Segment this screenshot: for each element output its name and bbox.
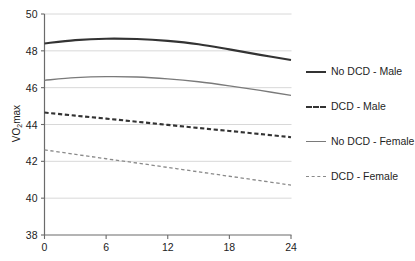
legend-label: No DCD - Male [331, 66, 402, 77]
legend-item-dcd-male: DCD - Male [306, 97, 415, 115]
series-line-dcd-female [45, 150, 292, 185]
vo2max-line-chart: VO2max 38404244464850 06121824 No DCD - … [0, 0, 415, 261]
legend-line-icon-dcd-male [306, 101, 326, 111]
legend-line-icon-no-dcd-female [306, 136, 326, 146]
legend-line-icon-no-dcd-male [306, 66, 326, 76]
legend-line-icon-dcd-female [306, 171, 326, 181]
legend-label: No DCD - Female [331, 136, 414, 147]
series-line-no-dcd-female [45, 77, 292, 96]
legend-label: DCD - Female [331, 171, 398, 182]
legend-item-no-dcd-male: No DCD - Male [306, 62, 415, 80]
legend-item-no-dcd-female: No DCD - Female [306, 132, 415, 150]
legend-item-dcd-female: DCD - Female [306, 167, 415, 185]
chart-legend: No DCD - Male DCD - Male No DCD - Female… [306, 62, 415, 202]
legend-label: DCD - Male [331, 101, 386, 112]
series-line-no-dcd-male [45, 39, 292, 60]
